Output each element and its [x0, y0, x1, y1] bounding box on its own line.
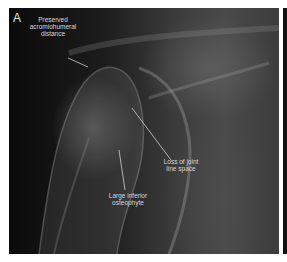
- label-preserved-acromiohumeral-distance: Preserved acromiohumeral distance: [23, 16, 83, 37]
- xray-anatomy-overlay: [9, 8, 279, 254]
- leader-line-acromiohumeral: [68, 58, 88, 67]
- adjacent-panel-edge: [283, 8, 287, 254]
- label-large-inferior-osteophyte: Large inferior osteophyte: [103, 192, 153, 206]
- xray-image: A Preserved acromiohumeral distance Loss…: [9, 8, 279, 254]
- label-loss-of-joint-line-space: Loss of joint line space: [157, 158, 205, 172]
- panel-label: A: [13, 11, 21, 25]
